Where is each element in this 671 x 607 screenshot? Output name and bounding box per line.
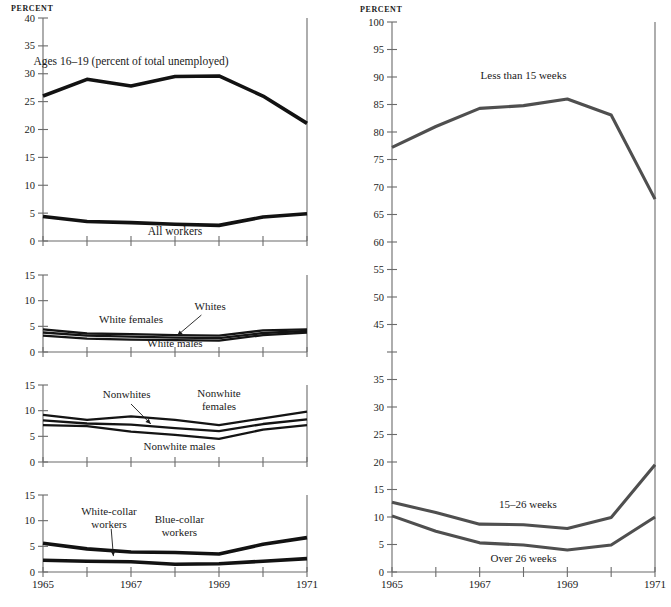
x-tick-label: 1965 <box>32 578 55 590</box>
series-line <box>43 538 307 554</box>
y-tick-label: 60 <box>374 237 385 248</box>
y-tick-label: 15 <box>25 380 36 391</box>
y-tick-label: 15 <box>25 490 36 501</box>
y-tick-label: 95 <box>374 44 385 55</box>
y-tick-label: 5 <box>30 541 35 552</box>
y-tick-label: 30 <box>374 402 385 413</box>
y-tick-label: 0 <box>30 236 35 247</box>
panel-nonwhite-unemployment: 051015NonwhitefemalesNonwhitesNonwhite m… <box>25 380 308 468</box>
x-tick-label: 1971 <box>296 578 318 590</box>
x-tick-label: 1969 <box>556 578 579 590</box>
y-tick-label: 10 <box>25 405 36 416</box>
x-tick-label: 1969 <box>208 578 231 590</box>
y-tick-label: 75 <box>374 154 385 165</box>
series-label: Less than 15 weeks <box>481 69 567 81</box>
y-tick-label: 5 <box>30 208 35 219</box>
y-tick-label: 50 <box>374 292 385 303</box>
y-tick-label: 35 <box>25 40 36 51</box>
y-tick-label: 15 <box>374 484 385 495</box>
series-line <box>392 99 655 199</box>
y-tick-label: 0 <box>30 567 35 578</box>
y-tick-label: 30 <box>25 68 36 79</box>
panel-unemployment-rates-teens-all: PERCENT0510152025303540Ages 16–19 (perce… <box>11 4 307 247</box>
y-tick-label: 35 <box>374 374 385 385</box>
y-tick-label: 10 <box>25 515 36 526</box>
unemployment-figure: PERCENT0510152025303540Ages 16–19 (perce… <box>0 0 671 607</box>
series-label: Nonwhite <box>197 387 241 399</box>
y-tick-label: 45 <box>374 319 385 330</box>
series-line <box>43 559 307 565</box>
series-label: White females <box>99 313 163 325</box>
series-label: workers <box>162 526 197 538</box>
panel-occupation-unemployment: 0510151965196719691971Blue-collarworkers… <box>25 490 319 590</box>
y-tick-label: 0 <box>30 457 35 468</box>
y-tick-label: 85 <box>374 99 385 110</box>
series-label: White-collar <box>81 505 137 517</box>
y-tick-label: 10 <box>374 512 385 523</box>
y-tick-label: 20 <box>25 124 36 135</box>
series-line <box>392 516 655 550</box>
y-tick-label: 65 <box>374 209 385 220</box>
series-label: workers <box>91 518 126 530</box>
series-label: Whites <box>195 300 226 312</box>
y-tick-label: 80 <box>374 127 385 138</box>
axis-unit-label: PERCENT <box>360 5 402 14</box>
series-line <box>43 76 307 123</box>
y-tick-label: 100 <box>368 17 384 28</box>
series-label: Nonwhites <box>103 388 151 400</box>
x-tick-label: 1971 <box>644 578 666 590</box>
x-tick-label: 1965 <box>381 578 404 590</box>
series-label: White males <box>147 337 202 349</box>
y-tick-label: 20 <box>374 457 385 468</box>
y-tick-label: 5 <box>379 539 384 550</box>
y-tick-label: 40 <box>25 13 36 24</box>
y-tick-label: 5 <box>30 431 35 442</box>
x-tick-label: 1967 <box>120 578 143 590</box>
y-tick-label: 10 <box>25 295 36 306</box>
y-tick-label: 0 <box>30 347 35 358</box>
series-line <box>392 465 655 529</box>
series-label: Over 26 weeks <box>491 552 557 564</box>
y-tick-label: 15 <box>25 152 36 163</box>
series-label: Blue-collar <box>155 513 205 525</box>
series-label: All workers <box>148 225 203 237</box>
y-tick-label: 25 <box>25 96 36 107</box>
y-tick-label: 5 <box>30 321 35 332</box>
y-tick-label: 0 <box>379 567 384 578</box>
panel-white-unemployment: 051015White femalesWhitesWhite males <box>25 270 308 358</box>
y-tick-label: 70 <box>374 182 385 193</box>
x-tick-label: 1967 <box>469 578 492 590</box>
series-label: females <box>202 400 236 412</box>
y-tick-label: 25 <box>374 429 385 440</box>
series-label: Ages 16–19 (percent of total unemployed) <box>33 55 228 68</box>
leader-arrowhead <box>111 551 116 556</box>
y-tick-label: 55 <box>374 264 385 275</box>
y-tick-label: 15 <box>25 270 36 281</box>
panel-duration-of-unemployment: PERCENT051015202530354550556065707580859… <box>360 5 666 590</box>
series-line <box>43 214 307 226</box>
series-label: 15–26 weeks <box>499 498 557 510</box>
figure-canvas: PERCENT0510152025303540Ages 16–19 (perce… <box>0 0 671 607</box>
y-tick-label: 10 <box>25 180 36 191</box>
y-tick-label: 90 <box>374 72 385 83</box>
series-label: Nonwhite males <box>144 440 216 452</box>
